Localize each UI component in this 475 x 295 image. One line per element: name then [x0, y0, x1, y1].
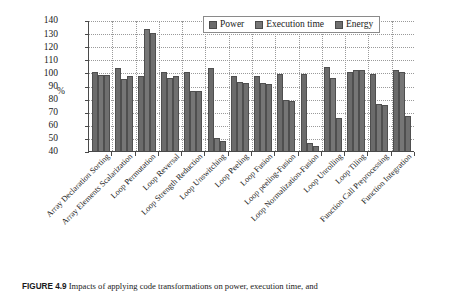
x-tick-mark [391, 152, 392, 156]
plot-area [88, 21, 414, 152]
bar-group [368, 21, 391, 151]
y-tick-label: 80 [32, 95, 58, 105]
bar-group [252, 21, 275, 151]
plot-wrapper [88, 21, 414, 152]
bar-group [205, 21, 228, 151]
bar-group [159, 21, 182, 151]
bar-energy [313, 146, 319, 151]
bar-group [391, 21, 414, 151]
bar-energy [220, 141, 226, 151]
bar-group [275, 21, 298, 151]
bar-energy [150, 33, 156, 151]
bar-energy [336, 118, 342, 151]
y-tick-label: 100 [32, 69, 58, 79]
x-tick-mark [135, 152, 136, 156]
bar-group [89, 21, 112, 151]
x-tick-mark [274, 152, 275, 156]
bar-energy [289, 101, 295, 151]
x-tick-mark [344, 152, 345, 156]
y-tick-label: 140 [32, 16, 58, 26]
x-tick-mark [204, 152, 205, 156]
bar-energy [359, 70, 365, 151]
bar-group [135, 21, 158, 151]
legend-label-energy: Energy [346, 19, 373, 30]
x-tick-mark [414, 152, 415, 156]
bar-energy [196, 91, 202, 151]
bar-group [112, 21, 135, 151]
legend-item-execution-time: Execution time [255, 19, 324, 30]
figure-number: FIGURE 4.9 [22, 282, 67, 291]
figure-caption-text: Impacts of applying code transformations… [69, 281, 318, 291]
bar-power [301, 74, 307, 151]
bar-energy [173, 76, 179, 151]
bar-group [228, 21, 251, 151]
legend-swatch-power [209, 21, 217, 29]
legend-swatch-energy [335, 21, 343, 29]
x-tick-mark [321, 152, 322, 156]
legend-swatch-execution-time [255, 21, 263, 29]
x-tick-mark [251, 152, 252, 156]
x-tick-mark [367, 152, 368, 156]
bar-energy [127, 76, 133, 151]
bar-group [321, 21, 344, 151]
y-tick-label: 40 [32, 147, 58, 157]
y-tick-label: 130 [32, 30, 58, 40]
y-tick-mark [85, 152, 89, 153]
chart-legend: Power Execution time Energy [203, 16, 380, 33]
x-tick-mark [111, 152, 112, 156]
y-tick-label: 60 [32, 121, 58, 131]
legend-item-energy: Energy [335, 19, 373, 30]
bar-group [298, 21, 321, 151]
legend-label-execution-time: Execution time [266, 19, 324, 30]
bar-energy [405, 116, 411, 151]
y-axis-label: % [57, 86, 65, 96]
y-tick-label: 50 [32, 134, 58, 144]
figure-caption: FIGURE 4.9 Impacts of applying code tran… [22, 281, 454, 292]
bar-energy [266, 84, 272, 151]
x-tick-mark [298, 152, 299, 156]
y-tick-label: 120 [32, 43, 58, 53]
x-tick-mark [228, 152, 229, 156]
y-tick-label: 90 [32, 82, 58, 92]
bar-energy [382, 105, 388, 151]
bar-groups [89, 21, 414, 151]
y-tick-label: 110 [32, 56, 58, 66]
x-tick-mark [158, 152, 159, 156]
legend-label-power: Power [220, 19, 244, 30]
bar-energy [243, 83, 249, 151]
bar-energy [104, 75, 110, 151]
bar-group [344, 21, 367, 151]
x-tick-mark [181, 152, 182, 156]
y-tick-label: 70 [32, 108, 58, 118]
legend-item-power: Power [209, 19, 244, 30]
bar-group [182, 21, 205, 151]
figure-container: Power Execution time Energy % 4050607080… [0, 0, 475, 295]
